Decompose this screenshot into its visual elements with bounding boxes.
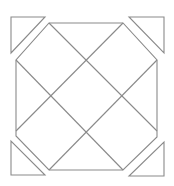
quilt-diagram — [0, 0, 174, 186]
diagram-canvas — [0, 0, 174, 186]
corner-triangle-bottom-left — [11, 141, 45, 175]
corner-triangle-top-left — [11, 17, 45, 53]
octagon-outline — [16, 23, 157, 170]
diagonal-lattice — [16, 23, 157, 170]
